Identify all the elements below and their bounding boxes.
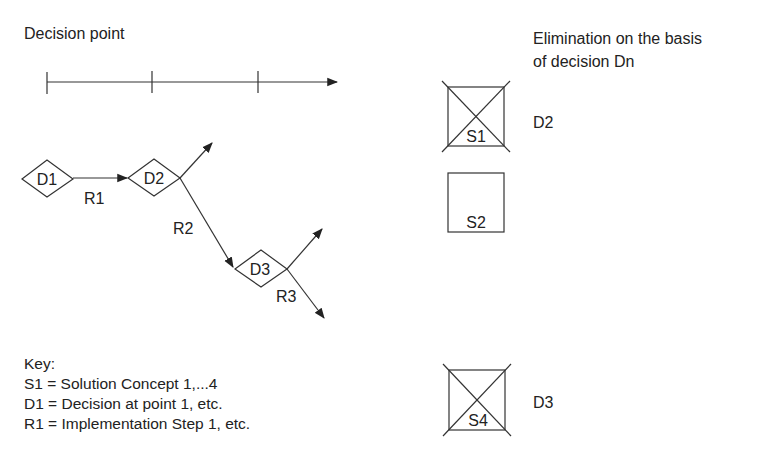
- solution-s1-label: S1: [466, 128, 486, 145]
- decision-d1-label: D1: [37, 171, 58, 188]
- d3-branch-up-arrow: [287, 229, 322, 269]
- key-title: Key:: [24, 354, 250, 374]
- key-item-implementation: R1 = Implementation Step 1, etc.: [24, 414, 250, 434]
- eliminated-by-d3-label: D3: [533, 394, 554, 411]
- legend-key: Key: S1 = Solution Concept 1,...4 D1 = D…: [24, 354, 250, 434]
- eliminated-by-d2-label: D2: [533, 114, 554, 131]
- solution-s4-label: S4: [468, 412, 488, 429]
- decision-d2-label: D2: [144, 170, 165, 187]
- route-r3-label: R3: [276, 288, 297, 305]
- key-item-solution: S1 = Solution Concept 1,...4: [24, 374, 250, 394]
- timeline-axis: [47, 71, 337, 94]
- route-r1-label: R1: [84, 190, 105, 207]
- solution-s2-label: S2: [466, 214, 486, 231]
- d2-branch-up-arrow: [180, 143, 212, 178]
- key-item-decision: D1 = Decision at point 1, etc.: [24, 394, 250, 414]
- decision-d3-label: D3: [250, 261, 271, 278]
- route-r2-label: R2: [173, 220, 194, 237]
